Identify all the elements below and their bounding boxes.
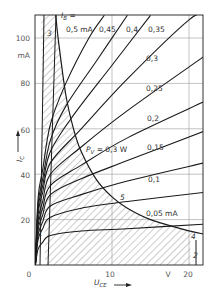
y-axis-arrow-icon — [16, 130, 20, 152]
curve-label-0-15: 0,15 — [147, 143, 164, 152]
x-unit: V — [165, 270, 171, 279]
curve-label-0-1: 0,1 — [148, 175, 160, 184]
curve-label-0-25: 0,25 — [146, 84, 163, 93]
y-axis-label: IC — [15, 156, 25, 162]
svg-text:UCE: UCE — [94, 278, 107, 288]
curve-label-0-05: 0,05 mA — [146, 209, 178, 218]
region-label-1: 1 — [38, 229, 43, 238]
ib-parameter-label: IB = — [61, 11, 76, 21]
y-tick-60: 60 — [20, 126, 30, 135]
y-tick-80: 80 — [20, 79, 30, 88]
curve-label-0-45: 0,45 — [99, 25, 116, 34]
x-tick-10: 10 — [105, 270, 115, 279]
region-label-4: 4 — [191, 232, 196, 241]
curve-label-0-5: 0,5 mA — [66, 25, 94, 34]
power-hyperbola-label: PV = 0,3 W — [86, 145, 128, 155]
curve-label-0-35: 0,35 — [148, 25, 165, 34]
curve-label-0-2: 0,2 — [147, 114, 159, 123]
region-label-5: 5 — [120, 193, 125, 202]
curve-label-0-3: 0,3 — [146, 54, 158, 63]
region-label-2: 2 — [193, 251, 198, 260]
curve-label-0-4: 0,4 — [126, 25, 138, 34]
x-axis-ticks: 0 10 V 20 — [27, 270, 193, 279]
region-label-3: 3 — [47, 29, 52, 38]
y-axis-ticks: 100 mA 80 60 40 20 — [16, 34, 31, 225]
x-tick-0: 0 — [27, 270, 32, 279]
x-axis-arrow-icon — [126, 283, 132, 287]
y-tick-40: 40 — [20, 171, 30, 180]
x-axis-label: UCE — [94, 278, 132, 288]
x-tick-20: 20 — [183, 270, 193, 279]
y-unit: mA — [18, 51, 31, 60]
y-tick-100: 100 — [16, 34, 31, 43]
svg-text:IC: IC — [15, 156, 25, 162]
y-tick-20: 20 — [20, 216, 30, 225]
transistor-output-characteristics-chart: 100 mA 80 60 40 20 IC 0 10 V 20 UCE IB =… — [0, 0, 213, 298]
